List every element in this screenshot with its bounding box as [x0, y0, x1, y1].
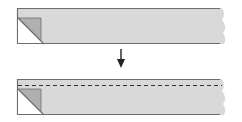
fold-diagram — [0, 0, 242, 122]
down-arrow-icon — [117, 49, 125, 68]
strip-body — [17, 79, 225, 115]
strip-before — [17, 8, 225, 44]
strip-after — [17, 79, 225, 115]
strip-body — [17, 8, 225, 44]
